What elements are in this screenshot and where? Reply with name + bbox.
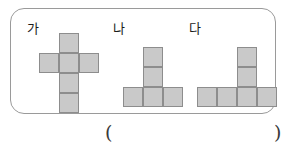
answer-row: ( ) xyxy=(0,120,288,154)
shape-label-ga: 가 xyxy=(27,22,39,35)
shape-cell xyxy=(39,53,59,73)
answer-open-paren: ( xyxy=(105,123,112,142)
figure-box: 가 나 다 xyxy=(10,8,276,114)
answer-close-paren: ) xyxy=(274,123,281,142)
shape-group-na: 나 xyxy=(109,19,191,115)
shape-group-ga: 가 xyxy=(27,19,107,115)
shape-cell xyxy=(163,87,183,107)
shape-cell xyxy=(143,87,163,107)
shape-cell xyxy=(257,87,277,107)
problem-figure-page: 가 나 다 xyxy=(0,0,288,158)
shape-label-na: 나 xyxy=(113,22,125,35)
shape-cell xyxy=(59,53,79,73)
shape-label-da: 다 xyxy=(189,22,201,35)
shape-cell xyxy=(79,53,99,73)
shape-cell xyxy=(237,87,257,107)
shape-cell xyxy=(143,47,163,67)
shape-cell xyxy=(59,93,79,113)
shape-cell xyxy=(197,87,217,107)
shape-cell xyxy=(237,47,257,67)
shape-group-da: 다 xyxy=(189,19,281,115)
shape-cell xyxy=(217,87,237,107)
shape-cell xyxy=(123,87,143,107)
shape-cell xyxy=(59,33,79,53)
shape-cell xyxy=(143,67,163,87)
shape-cell xyxy=(59,73,79,93)
shape-cell xyxy=(237,67,257,87)
